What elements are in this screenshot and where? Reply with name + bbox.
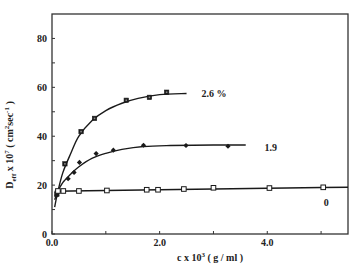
data-point [267, 186, 272, 191]
series-label: 0 [324, 197, 329, 208]
x-tick-label: 4.0 [261, 237, 274, 248]
data-point-center [64, 163, 66, 165]
data-point-center [125, 99, 127, 101]
data-point-center [149, 97, 151, 99]
data-point [77, 189, 82, 194]
data-point [321, 185, 326, 190]
x-axis-label: c x 103 ( g / ml ) [177, 251, 243, 264]
x-tick-label: 2.0 [153, 237, 166, 248]
data-point [156, 187, 161, 192]
data-point [105, 188, 110, 193]
y-tick-label: 40 [37, 131, 47, 142]
data-point [182, 187, 187, 192]
data-point-center [166, 91, 168, 93]
series-label: 1.9 [265, 142, 278, 153]
y-tick-label: 80 [37, 33, 47, 44]
data-point [61, 189, 66, 194]
series-label: 2.6 % [202, 88, 227, 99]
data-point [144, 187, 149, 192]
data-point [211, 186, 216, 191]
data-point [56, 189, 61, 194]
y-tick-label: 0 [42, 229, 47, 240]
chart: 0.02.04.0 020406080 2.6 %1.90 c x 103 ( … [0, 0, 364, 279]
data-point-center [94, 118, 96, 120]
x-tick-label: 0.0 [46, 237, 59, 248]
y-tick-label: 60 [37, 82, 47, 93]
y-tick-label: 20 [37, 180, 47, 191]
data-point-center [80, 131, 82, 133]
